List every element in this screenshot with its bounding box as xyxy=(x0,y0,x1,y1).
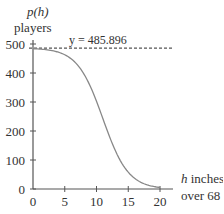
y-tick-label: 0 xyxy=(19,182,26,197)
y-tick-label: 300 xyxy=(6,95,26,110)
x-tick-label: 20 xyxy=(154,194,167,209)
x-tick-label: 15 xyxy=(122,194,135,209)
x-tick-label: 10 xyxy=(90,194,103,209)
asymptote-label: y = 485.896 xyxy=(69,34,127,46)
x-axis-label-line2: over 68 xyxy=(181,189,220,202)
y-tick-label: 100 xyxy=(6,153,26,168)
y-tick-label: 200 xyxy=(6,124,26,139)
x-tick-label: 0 xyxy=(30,194,37,209)
y-tick-label: 400 xyxy=(6,66,26,81)
y-axis-label-unit: players xyxy=(14,21,52,34)
x-tick-label: 5 xyxy=(62,194,69,209)
x-axis-unit: inches xyxy=(188,171,224,186)
y-axis-label-function: p(h) xyxy=(27,5,49,18)
logistic-curve xyxy=(33,49,160,188)
y-tick-label: 500 xyxy=(6,37,26,52)
x-axis-label: h inches xyxy=(181,172,223,185)
